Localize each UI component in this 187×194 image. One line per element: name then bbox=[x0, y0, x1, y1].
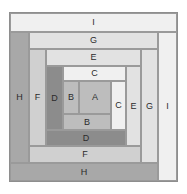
piece-C-right: C bbox=[111, 81, 126, 130]
piece-H-bottom: H bbox=[10, 163, 158, 181]
piece-I-right: I bbox=[158, 32, 177, 181]
piece-D-bottom: D bbox=[46, 130, 126, 146]
piece-label: C bbox=[91, 69, 98, 78]
piece-G-right: G bbox=[141, 49, 158, 163]
piece-E-top: E bbox=[46, 49, 141, 66]
piece-label: I bbox=[92, 18, 95, 27]
piece-H-left: H bbox=[10, 32, 29, 163]
piece-label: E bbox=[90, 53, 96, 62]
piece-label: G bbox=[146, 102, 153, 111]
piece-G-top: G bbox=[29, 32, 158, 49]
piece-label: G bbox=[90, 36, 97, 45]
piece-label: C bbox=[115, 101, 122, 110]
piece-label: D bbox=[51, 94, 58, 103]
piece-label: F bbox=[82, 150, 88, 159]
piece-label: I bbox=[166, 102, 169, 111]
piece-B-bottom: B bbox=[63, 114, 111, 130]
piece-D-left: D bbox=[46, 66, 63, 130]
piece-I-top: I bbox=[10, 13, 177, 32]
piece-label: E bbox=[130, 102, 136, 111]
piece-label: B bbox=[68, 93, 74, 102]
piece-F-bottom: F bbox=[29, 146, 141, 163]
piece-label: B bbox=[84, 118, 90, 127]
piece-C-top: C bbox=[63, 66, 126, 81]
log-cabin-block-diagram: IIHHGGFFEEDDCCBBA bbox=[0, 0, 187, 194]
piece-label: H bbox=[81, 168, 88, 177]
piece-F-left: F bbox=[29, 49, 46, 146]
piece-E-right: E bbox=[126, 66, 141, 146]
piece-B-left: B bbox=[63, 81, 79, 114]
piece-label: F bbox=[35, 93, 41, 102]
piece-label: D bbox=[83, 134, 90, 143]
piece-label: H bbox=[16, 93, 23, 102]
piece-label: A bbox=[92, 93, 98, 102]
piece-A-center: A bbox=[79, 81, 111, 114]
